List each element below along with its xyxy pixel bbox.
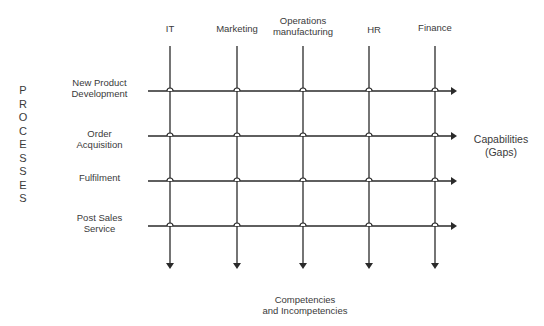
matrix-grid	[0, 0, 544, 326]
